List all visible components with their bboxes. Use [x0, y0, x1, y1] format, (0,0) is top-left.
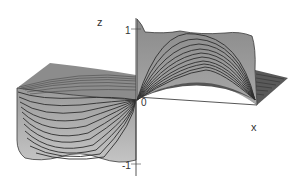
- left-surface: [17, 63, 136, 162]
- x-axis-label: x: [251, 121, 257, 133]
- right-surface: [137, 19, 257, 105]
- z-tick-label-1: 1: [125, 25, 131, 36]
- z-tick-label-minus-1: -1: [122, 160, 131, 171]
- origin-label: 0: [141, 97, 147, 108]
- surface-plot: z 1 0 -1 x: [0, 0, 303, 186]
- right-tail: [255, 70, 288, 105]
- z-axis-label: z: [97, 16, 103, 28]
